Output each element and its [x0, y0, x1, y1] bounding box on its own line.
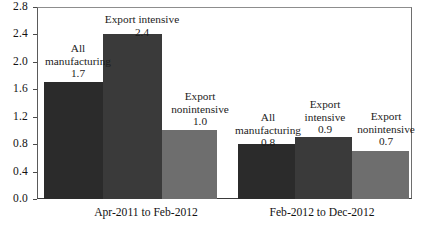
bar-annotation-all-manufacturing-period1: All manufacturing 1.7	[40, 42, 116, 80]
y-tick-label: 2.0	[13, 56, 28, 68]
y-tick-label: 0.4	[13, 166, 28, 178]
y-tick-label: 1.2	[13, 111, 28, 123]
y-tick-label: 0.8	[13, 138, 28, 150]
annot-value-label: 1.7	[40, 67, 116, 80]
y-axis: 2.8 2.4 2.0 1.6 1.2 0.8 0.4 0.0	[0, 0, 33, 230]
bar-annotation-export-intensive-period1: Export intensive 2.4	[88, 13, 196, 38]
annot-value-label: 0.7	[348, 135, 424, 148]
y-tick-label: 2.4	[13, 29, 28, 41]
y-tick-label: 1.6	[13, 84, 28, 96]
bar-export-nonintensive-period2	[352, 151, 409, 199]
x-axis-group-label-period1: Apr-2011 to Feb-2012	[56, 206, 236, 219]
annot-series-label: Export intensive	[294, 98, 356, 123]
y-tick-mark	[33, 199, 37, 200]
bar-chart: 2.8 2.4 2.0 1.6 1.2 0.8 0.4 0.0 All manu…	[0, 0, 427, 230]
annot-series-label: Export nonintensive	[348, 110, 424, 135]
annot-value-label: 0.8	[228, 136, 308, 149]
bar-all-manufacturing-period2	[238, 144, 295, 199]
annot-value-label: 2.4	[88, 26, 196, 39]
bar-export-nonintensive-period1	[162, 130, 217, 199]
y-tick-label: 2.8	[13, 1, 28, 13]
bar-all-manufacturing-period1	[44, 82, 103, 199]
x-axis-group-label-period2: Feb-2012 to Dec-2012	[232, 206, 412, 219]
bar-annotation-export-nonintensive-period2: Export nonintensive 0.7	[348, 110, 424, 148]
annot-series-label: Export intensive	[88, 13, 196, 26]
bar-annotation-export-intensive-period2: Export intensive 0.9	[294, 98, 356, 136]
y-tick-label: 0.0	[13, 193, 28, 205]
annot-series-label: All manufacturing	[40, 42, 116, 67]
annot-value-label: 0.9	[294, 123, 356, 136]
